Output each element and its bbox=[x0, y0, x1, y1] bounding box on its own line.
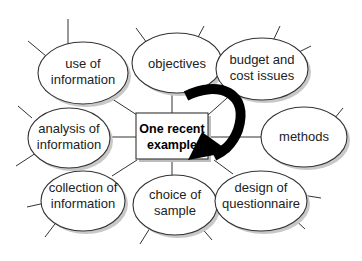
node-label-line1: budget and bbox=[229, 52, 294, 67]
node-design-of-questionnaire: design of questionnaire bbox=[215, 171, 310, 234]
node-label-line1: objectives bbox=[148, 56, 206, 71]
node-label-line2: information bbox=[37, 137, 101, 152]
node-label-line1: use of bbox=[65, 56, 101, 71]
node-label-line2: information bbox=[51, 196, 115, 211]
node-label-line1: design of bbox=[235, 180, 288, 195]
node-label-line2: information bbox=[51, 72, 115, 87]
center-label-line1: One recent bbox=[139, 122, 205, 136]
node-use-of-information: use of information bbox=[38, 42, 131, 107]
node-label-line2: questionnaire bbox=[222, 196, 300, 211]
node-label-line1: collection of bbox=[49, 180, 118, 195]
node-analysis-of-information: analysis of information bbox=[28, 108, 113, 171]
mind-map-diagram: use of information objectives budget and… bbox=[0, 0, 362, 261]
node-label-line1: methods bbox=[279, 129, 329, 144]
node-label-line2: cost issues bbox=[230, 68, 295, 83]
node-label-line1: analysis of bbox=[38, 121, 100, 136]
center-label-line2: example bbox=[147, 138, 197, 152]
node-label-line2: sample bbox=[154, 203, 196, 218]
node-label-line1: choice of bbox=[149, 187, 201, 202]
node-choice-of-sample: choice of sample bbox=[133, 175, 220, 238]
